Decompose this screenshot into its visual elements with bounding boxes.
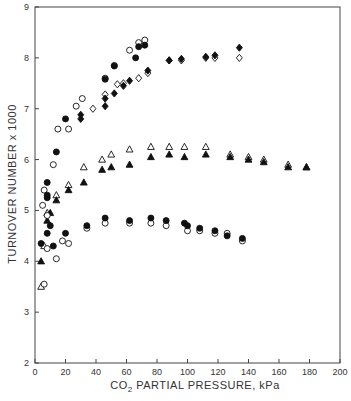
triangle-marker	[166, 143, 173, 149]
y-axis: 23456789	[24, 2, 39, 368]
circle-marker	[50, 243, 56, 249]
y-axis-label: TURNOVER NUMBER x 1000	[6, 104, 18, 264]
circle-marker	[127, 47, 133, 53]
circle-marker	[111, 63, 117, 69]
circle-marker	[47, 223, 53, 229]
circle-marker	[44, 213, 50, 219]
diamond-marker	[236, 54, 242, 61]
triangle-marker	[108, 151, 115, 157]
x-tick-label: 80	[152, 367, 162, 377]
circle-marker	[59, 238, 65, 244]
x-axis: 020406080100120140160180200	[32, 359, 347, 377]
circle-marker	[55, 126, 61, 132]
x-tick-label: 140	[241, 367, 256, 377]
data-points	[38, 37, 310, 289]
triangle-marker	[166, 151, 173, 157]
x-tick-label: 0	[32, 367, 37, 377]
circle-marker	[63, 116, 69, 122]
triangle-marker	[126, 161, 133, 167]
triangle-marker	[80, 179, 87, 185]
circle-marker	[84, 223, 90, 229]
circle-marker	[163, 218, 169, 224]
diamond-marker	[111, 90, 117, 97]
circle-marker	[102, 76, 108, 82]
triangle-marker	[108, 164, 115, 170]
triangle-marker	[80, 164, 87, 170]
x-tick-label: 100	[180, 367, 195, 377]
triangle-marker	[99, 156, 106, 162]
circle-marker	[224, 233, 230, 239]
circle-marker	[50, 162, 56, 168]
y-tick-label: 4	[24, 256, 29, 266]
circle-marker	[44, 230, 50, 236]
circle-marker	[102, 215, 108, 221]
y-tick-label: 8	[24, 53, 29, 63]
x-axis-label: CO2 PARTIAL PRESSURE, kPa	[110, 379, 280, 394]
x-tick-label: 200	[332, 367, 347, 377]
triangle-marker	[148, 153, 155, 159]
triangle-marker	[303, 164, 310, 170]
y-tick-label: 6	[24, 155, 29, 165]
circle-marker	[142, 42, 148, 48]
triangle-marker	[181, 143, 188, 149]
circle-marker	[197, 225, 203, 231]
circle-marker	[44, 246, 50, 252]
x-tick-label: 120	[210, 367, 225, 377]
diamond-marker	[136, 75, 142, 82]
y-tick-label: 9	[24, 2, 29, 12]
circle-marker	[63, 230, 69, 236]
triangle-marker	[202, 151, 209, 157]
circle-marker	[44, 192, 50, 198]
circle-marker	[53, 149, 59, 155]
diamond-marker	[114, 81, 120, 88]
circle-marker	[66, 126, 72, 132]
y-tick-label: 7	[24, 104, 29, 114]
circle-marker	[66, 240, 72, 246]
circle-marker	[44, 179, 50, 185]
circle-marker	[185, 223, 191, 229]
scatter-chart: 020406080100120140160180200 23456789	[0, 0, 351, 401]
y-tick-label: 2	[24, 358, 29, 368]
diamond-marker	[166, 57, 172, 64]
circle-marker	[136, 44, 142, 50]
diamond-marker	[127, 77, 133, 84]
x-axis-label-post: PARTIAL PRESSURE, kPa	[133, 379, 280, 391]
triangle-marker	[202, 143, 209, 149]
x-tick-label: 60	[121, 367, 131, 377]
diamond-marker	[236, 44, 242, 51]
circle-marker	[79, 96, 85, 102]
circle-marker	[239, 235, 245, 241]
diamond-marker	[102, 103, 108, 110]
diamond-marker	[90, 105, 96, 112]
x-axis-label-pre: CO	[110, 379, 128, 391]
y-tick-label: 5	[24, 205, 29, 215]
circle-marker	[73, 103, 79, 109]
x-tick-label: 160	[271, 367, 286, 377]
x-tick-label: 180	[302, 367, 317, 377]
triangle-marker	[99, 166, 106, 172]
triangle-marker	[126, 146, 133, 152]
circle-marker	[133, 55, 139, 61]
circle-marker	[53, 256, 59, 262]
circle-marker	[41, 281, 47, 287]
circle-marker	[148, 215, 154, 221]
triangle-marker	[148, 143, 155, 149]
circle-marker	[38, 240, 44, 246]
circle-marker	[212, 228, 218, 234]
y-tick-label: 3	[24, 307, 29, 317]
circle-marker	[40, 202, 46, 208]
circle-marker	[127, 218, 133, 224]
x-tick-label: 40	[91, 367, 101, 377]
triangle-marker	[181, 153, 188, 159]
x-tick-label: 20	[60, 367, 70, 377]
